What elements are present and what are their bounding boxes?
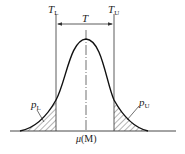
distribution-graphic [0,0,185,154]
upper-limit-label: TU [108,4,119,17]
diagram: TL T TU pL pU μ(M) [0,0,185,154]
tolerance-label: T [82,13,88,24]
bell-curve [20,39,148,131]
center-label: μ(M) [76,134,97,144]
lower-limit-label: TL [48,4,58,17]
lower-tail-label: pL [31,99,41,112]
upper-tail-leader [127,106,139,120]
upper-tail-label: pU [139,97,150,110]
